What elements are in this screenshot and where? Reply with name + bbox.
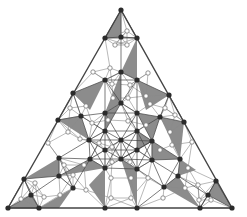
mesh-edge <box>59 140 89 158</box>
light-node <box>144 123 148 127</box>
mesh-edge <box>121 103 128 121</box>
light-node <box>42 195 46 199</box>
dark-node <box>78 113 83 118</box>
light-node <box>170 143 174 147</box>
light-node <box>78 137 82 141</box>
light-node <box>190 140 194 144</box>
mesh-edge <box>59 158 90 159</box>
light-node <box>173 113 177 117</box>
light-node <box>58 193 62 197</box>
light-node <box>62 163 66 167</box>
mesh-edge <box>89 140 90 159</box>
dark-node <box>175 173 180 178</box>
light-node <box>111 96 115 100</box>
dark-node <box>149 157 154 162</box>
mesh-edge <box>137 198 163 208</box>
mesh-edge <box>121 159 152 160</box>
light-node <box>126 96 130 100</box>
shaded-triangle <box>8 195 39 208</box>
dark-node <box>134 110 139 115</box>
light-node <box>91 70 95 74</box>
mesh-edge <box>121 103 137 113</box>
dark-node <box>118 34 123 39</box>
mesh-edge <box>128 98 137 113</box>
dark-node <box>21 176 26 181</box>
mesh-edge <box>93 68 110 72</box>
mesh-edge <box>188 142 192 168</box>
mesh-edges <box>8 10 232 208</box>
dark-node <box>134 77 139 82</box>
light-node <box>128 160 132 164</box>
light-node <box>109 196 113 200</box>
dark-node <box>28 192 33 197</box>
dark-node <box>229 205 234 210</box>
light-node <box>66 130 70 134</box>
dark-node <box>134 35 139 40</box>
light-node <box>19 197 23 201</box>
light-node <box>125 43 129 47</box>
light-node <box>144 94 148 98</box>
shaded-triangle <box>89 168 105 208</box>
dark-node <box>134 205 139 210</box>
light-node <box>148 102 152 106</box>
light-node <box>110 160 114 164</box>
light-node <box>209 198 213 202</box>
light-node <box>163 106 167 110</box>
dark-node <box>118 7 123 12</box>
light-node <box>108 66 112 70</box>
light-node <box>90 121 94 125</box>
light-node <box>196 183 200 187</box>
dark-node <box>102 165 107 170</box>
light-node <box>71 173 75 177</box>
dark-node <box>166 92 171 97</box>
dark-node <box>177 156 182 161</box>
mesh-edge <box>105 38 110 68</box>
light-node <box>33 181 37 185</box>
mesh-edge <box>59 176 60 195</box>
light-node <box>146 176 150 180</box>
mesh-diagram <box>0 0 247 217</box>
light-node <box>128 83 132 87</box>
dark-nodes <box>5 7 234 210</box>
dark-node <box>55 117 60 122</box>
light-node <box>197 198 201 202</box>
light-node <box>82 163 86 167</box>
dark-node <box>102 205 107 210</box>
dark-node <box>134 166 139 171</box>
light-node <box>158 148 162 152</box>
light-node <box>84 104 88 108</box>
light-node <box>129 196 133 200</box>
light-node <box>186 166 190 170</box>
light-node <box>168 130 172 134</box>
light-node <box>106 118 110 122</box>
light-node <box>161 196 165 200</box>
light-node <box>109 176 113 180</box>
light-node <box>68 106 72 110</box>
shaded-triangle <box>208 181 232 208</box>
dark-node <box>181 119 186 124</box>
light-node <box>113 43 117 47</box>
light-node <box>129 176 133 180</box>
light-node <box>125 29 129 33</box>
dark-node <box>205 192 210 197</box>
light-node <box>46 141 50 145</box>
triangulation-canvas <box>0 0 247 217</box>
dark-node <box>102 128 107 133</box>
mesh-edge <box>148 160 152 178</box>
dark-node <box>157 114 162 119</box>
mesh-edge <box>188 168 216 181</box>
light-node <box>110 82 114 86</box>
dark-node <box>102 147 107 152</box>
shaded-triangle <box>164 176 200 208</box>
dark-node <box>197 205 202 210</box>
dark-node <box>118 69 123 74</box>
dark-node <box>70 90 75 95</box>
dark-node <box>102 77 107 82</box>
dark-node <box>102 110 107 115</box>
dark-node <box>5 205 10 210</box>
shaded-triangle <box>58 116 89 140</box>
light-node <box>110 145 114 149</box>
dark-node <box>118 100 123 105</box>
dark-node <box>118 137 123 142</box>
dark-node <box>56 173 61 178</box>
